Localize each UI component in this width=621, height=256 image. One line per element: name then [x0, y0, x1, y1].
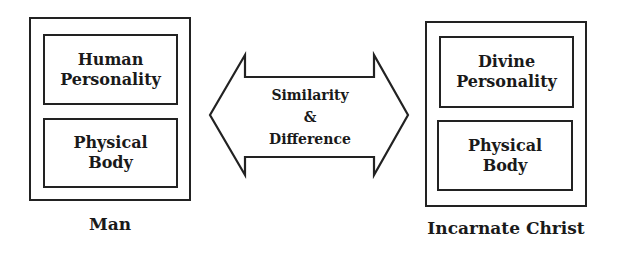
divine-personality-line2: Personality	[456, 72, 557, 92]
arrow-label-line1: Similarity	[245, 84, 375, 106]
arrow-label-line3: Difference	[245, 128, 375, 150]
christ-physical-body-box: Physical Body	[437, 120, 573, 191]
divine-personality-box: Divine Personality	[439, 36, 574, 108]
christ-physical-body-line1: Physical	[468, 136, 542, 156]
christ-caption: Incarnate Christ	[405, 218, 607, 238]
christ-physical-body-line2: Body	[483, 156, 528, 176]
arrow-label: Similarity & Difference	[245, 84, 375, 150]
divine-personality-line1: Divine	[478, 52, 535, 72]
arrow-label-line2: &	[245, 106, 375, 128]
